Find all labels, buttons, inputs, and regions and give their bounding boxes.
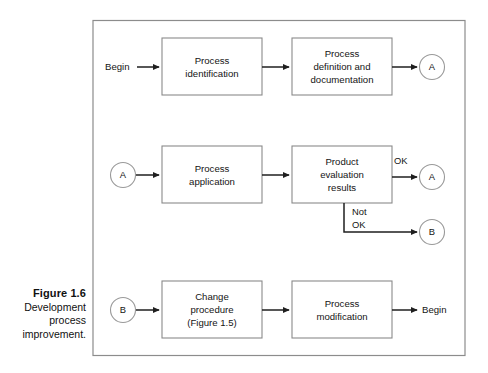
- box-product-evaluation-line-2: evaluation: [320, 169, 364, 180]
- box-process-application-line-2: application: [189, 176, 235, 187]
- branch-not-ok-label-line-2: OK: [352, 219, 366, 230]
- figure-frame: [93, 21, 465, 356]
- box-change-procedure-line-2: procedure: [190, 304, 233, 315]
- box-process-modification: [292, 281, 392, 338]
- row1-begin-label: Begin: [105, 61, 130, 72]
- row3-begin-label: Begin: [422, 304, 447, 315]
- box-change-procedure-line-3: (Figure 1.5): [187, 317, 237, 328]
- box-process-application: [162, 146, 262, 203]
- box-product-evaluation-line-3: results: [328, 182, 356, 193]
- connector-b-row3-label: B: [120, 304, 126, 315]
- box-process-identification-line-2: identification: [185, 68, 238, 79]
- box-process-identification-line-1: Process: [195, 55, 230, 66]
- box-process-application-line-1: Process: [195, 163, 230, 174]
- box-process-definition-line-2: definition and: [313, 61, 370, 72]
- box-process-definition-line-3: documentation: [311, 74, 374, 85]
- box-product-evaluation-line-1: Product: [325, 156, 358, 167]
- box-change-procedure-line-1: Change: [195, 291, 229, 302]
- connector-b-row2-label: B: [429, 226, 435, 237]
- branch-not-ok-label-line-1: Not: [352, 206, 367, 217]
- connector-a-row1-label: A: [429, 61, 436, 72]
- connector-a-row2-label: A: [120, 169, 127, 180]
- box-process-identification: [162, 38, 262, 95]
- flowchart-diagram: Begin Process identification Process def…: [0, 0, 488, 373]
- box-process-modification-line-2: modification: [316, 311, 367, 322]
- branch-ok-label: OK: [394, 155, 408, 166]
- connector-a-ok-label: A: [429, 171, 436, 182]
- box-process-modification-line-1: Process: [325, 298, 360, 309]
- box-process-definition-line-1: Process: [325, 48, 360, 59]
- figure-root: Figure 1.6 Development process improveme…: [0, 0, 488, 373]
